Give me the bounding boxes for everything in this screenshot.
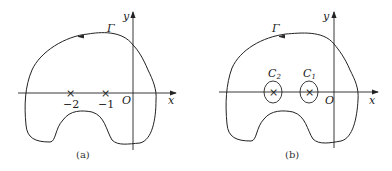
figure: Γ y x O × × −2 −1 (a) Γ y x O × × C2 C1 … [0, 0, 392, 171]
c1-label: C1 [303, 67, 316, 81]
x-axis-label: x [168, 94, 175, 107]
point-label: −2 [63, 98, 79, 111]
origin-label: O [122, 94, 131, 107]
cross-icon: × [269, 86, 278, 99]
panel-a: Γ y x O × × −2 −1 (a) [18, 10, 176, 160]
contour-gamma [226, 33, 358, 143]
panel-b: Γ y x O × × C2 C1 (b) [219, 10, 378, 160]
gamma-label: Γ [271, 22, 280, 35]
point-label: −1 [98, 98, 114, 111]
c2-label: C2 [268, 67, 281, 81]
y-axis-label: y [122, 10, 130, 23]
caption-b: (b) [285, 149, 299, 160]
contour-gamma [25, 33, 156, 145]
caption-a: (a) [76, 149, 90, 160]
origin-label: O [325, 94, 334, 107]
y-axis-label: y [322, 10, 330, 23]
gamma-label: Γ [106, 22, 115, 35]
x-axis-label: x [369, 94, 376, 107]
cross-icon: × [305, 86, 314, 99]
